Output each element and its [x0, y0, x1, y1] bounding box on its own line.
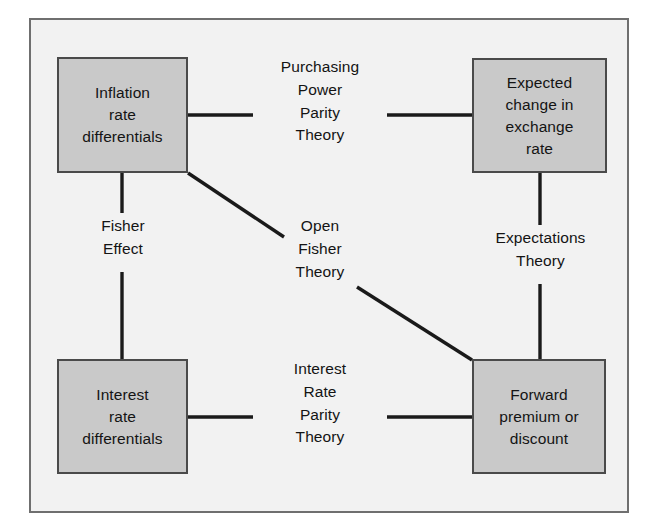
- edge-label-fisher-effect: Fisher Effect: [63, 215, 183, 261]
- node-expected-change-in-exchange-rate[interactable]: Expected change in exchange rate: [472, 58, 607, 173]
- edge-label-purchasing-power-parity-theory: Purchasing Power Parity Theory: [255, 56, 385, 147]
- node-inflation-rate-differentials[interactable]: Inflation rate differentials: [57, 57, 188, 173]
- node-label: Interest rate differentials: [76, 384, 168, 450]
- node-forward-premium-or-discount[interactable]: Forward premium or discount: [472, 359, 606, 474]
- edge-label-expectations-theory: Expectations Theory: [458, 227, 623, 273]
- edge-label-interest-rate-parity-theory: Interest Rate Parity Theory: [255, 358, 385, 449]
- node-interest-rate-differentials[interactable]: Interest rate differentials: [57, 359, 188, 474]
- node-label: Forward premium or discount: [493, 384, 584, 450]
- diagram-root: Inflation rate differentials Expected ch…: [0, 0, 655, 529]
- connector-open-fisher-lower: [357, 287, 472, 360]
- node-label: Inflation rate differentials: [76, 82, 168, 148]
- edge-label-open-fisher-theory: Open Fisher Theory: [265, 215, 375, 283]
- node-label: Expected change in exchange rate: [499, 72, 579, 160]
